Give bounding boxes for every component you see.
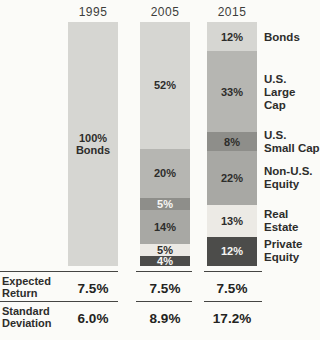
- segment-value-label: 14%: [154, 221, 176, 233]
- segment-u-s-large-cap: 20%: [140, 149, 190, 198]
- segment-u-s-small-cap: 5%: [140, 198, 190, 210]
- stacked-bar-1995: 100% Bonds: [68, 22, 118, 266]
- table-rule: [0, 301, 118, 302]
- segment-value-label: 22%: [221, 172, 243, 184]
- segment-value-label: 52%: [154, 79, 176, 91]
- column-header-2005: 2005: [140, 5, 190, 19]
- table-rule: [204, 301, 262, 302]
- segment-value-label: 12%: [221, 245, 243, 257]
- segment-bonds: 52%: [140, 22, 190, 149]
- table-rule: [204, 271, 262, 272]
- segment-real-estate: 5%: [140, 244, 190, 256]
- segment-value-label: 33%: [221, 86, 243, 98]
- stacked-bar-2015: 12%33%8%22%13%12%: [207, 22, 257, 266]
- segment-value-label: 13%: [221, 215, 243, 227]
- segment-value-label: 20%: [154, 167, 176, 179]
- segment-value-label: 4%: [157, 256, 173, 266]
- segment-bonds: 100% Bonds: [68, 22, 118, 266]
- legend-label-bonds: Bonds: [264, 30, 320, 43]
- segment-non-u-s-equity: 22%: [207, 151, 257, 205]
- stacked-bar-2005: 52%20%5%14%5%4%: [140, 22, 190, 266]
- table-rule: [0, 271, 118, 272]
- segment-value-label: 100% Bonds: [76, 132, 110, 156]
- segment-non-u-s-equity: 14%: [140, 210, 190, 244]
- legend-label-non-u-s-equity: Non-U.S. Equity: [264, 165, 320, 191]
- legend-label-u-s-large-cap: U.S. Large Cap: [264, 72, 320, 111]
- segment-private-equity: 4%: [140, 256, 190, 266]
- legend-label-u-s-small-cap: U.S. Small Cap: [264, 129, 320, 155]
- segment-bonds: 12%: [207, 22, 257, 51]
- expected-return-label: Expected Return: [2, 276, 72, 299]
- segment-value-label: 8%: [224, 136, 240, 148]
- segment-value-label: 12%: [221, 31, 243, 43]
- legend-label-real-estate: Real Estate: [264, 208, 320, 234]
- standard-deviation-2015: 17.2%: [207, 311, 257, 326]
- column-header-2015: 2015: [207, 5, 257, 19]
- segment-value-label: 5%: [157, 244, 173, 256]
- expected-return-2015: 7.5%: [207, 281, 257, 296]
- segment-u-s-large-cap: 33%: [207, 51, 257, 132]
- expected-return-1995: 7.5%: [68, 281, 118, 296]
- table-rule: [136, 271, 192, 272]
- standard-deviation-1995: 6.0%: [68, 311, 118, 326]
- asset-allocation-chart: 1995 2005 2015 100% Bonds52%20%5%14%5%4%…: [0, 0, 320, 340]
- expected-return-2005: 7.5%: [140, 281, 190, 296]
- segment-u-s-small-cap: 8%: [207, 132, 257, 152]
- column-header-1995: 1995: [68, 5, 118, 19]
- segment-private-equity: 12%: [207, 237, 257, 266]
- table-rule: [136, 301, 192, 302]
- standard-deviation-label: Standard Deviation: [2, 306, 72, 329]
- standard-deviation-2005: 8.9%: [140, 311, 190, 326]
- segment-real-estate: 13%: [207, 205, 257, 237]
- legend-label-private-equity: Private Equity: [264, 238, 320, 264]
- segment-value-label: 5%: [157, 198, 173, 210]
